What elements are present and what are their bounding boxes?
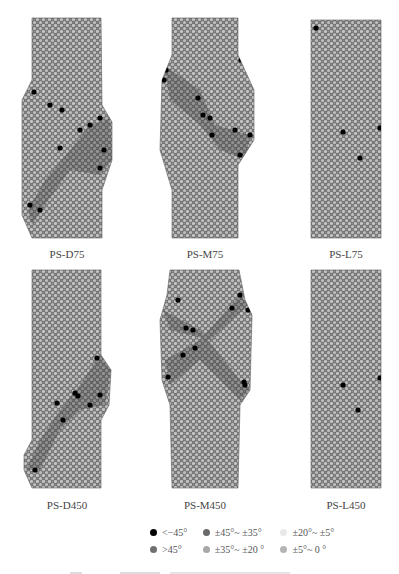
legend-label: ±20°~ ±5° — [292, 527, 334, 538]
legend-label: <−45° — [162, 527, 187, 538]
panel-label-ps-l450: PS-L450 — [296, 499, 396, 511]
legend-item-lt-neg45: <−45° — [150, 527, 203, 538]
particle-rotation-panels — [0, 0, 399, 520]
legend-item-20-5: ±20°~ ±5° — [280, 527, 370, 538]
specimen-panel-ps-m450 — [160, 270, 252, 488]
legend-dot-icon — [280, 529, 287, 536]
specimen-panel-ps-m75 — [160, 18, 254, 238]
panel-label-ps-d450: PS-D450 — [17, 499, 117, 511]
legend-item-5-0: ±5°~ 0 ° — [280, 544, 370, 555]
legend-row-2: >45° ±35°~ ±20 ° ±5°~ 0 ° — [150, 541, 370, 558]
legend-dot-icon — [203, 546, 210, 553]
specimen-panel-ps-d75 — [22, 18, 112, 238]
legend-label: >45° — [162, 544, 182, 555]
specimen-panel-ps-l450 — [311, 270, 383, 488]
panel-label-ps-m75: PS-M75 — [155, 248, 255, 260]
specimen-panel-ps-d450 — [24, 270, 111, 488]
legend-item-45-35: ±45°~ ±35° — [203, 527, 281, 538]
legend-dot-icon — [280, 546, 287, 553]
legend-dot-icon — [150, 529, 157, 536]
figure-caption-faded — [70, 563, 330, 571]
legend-label: ±5°~ 0 ° — [292, 544, 326, 555]
legend-row-1: <−45° ±45°~ ±35° ±20°~ ±5° — [150, 524, 370, 541]
panel-label-ps-l75: PS-L75 — [296, 248, 396, 260]
specimen-panel-ps-l75 — [311, 20, 383, 238]
legend-dot-icon — [203, 529, 210, 536]
legend-item-gt45: >45° — [150, 544, 203, 555]
legend: <−45° ±45°~ ±35° ±20°~ ±5° >45° ±35°~ ±2… — [150, 524, 370, 558]
legend-dot-icon — [150, 546, 157, 553]
legend-label: ±35°~ ±20 ° — [215, 544, 264, 555]
panel-label-ps-d75: PS-D75 — [17, 248, 117, 260]
legend-item-35-20: ±35°~ ±20 ° — [203, 544, 281, 555]
panel-label-ps-m450: PS-M450 — [155, 499, 255, 511]
legend-label: ±45°~ ±35° — [215, 527, 262, 538]
